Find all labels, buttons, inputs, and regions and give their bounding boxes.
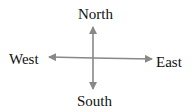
- west-arrow: [49, 57, 93, 58]
- north-label: North: [78, 7, 113, 22]
- east-arrow: [93, 58, 152, 59]
- west-label: West: [9, 52, 39, 67]
- south-label: South: [77, 94, 112, 109]
- east-label: East: [156, 55, 182, 70]
